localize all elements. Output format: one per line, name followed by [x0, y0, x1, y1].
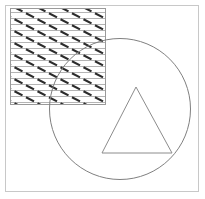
figure-svg-root: Geometric composition: hatched square ov… [0, 0, 205, 199]
geometric-figure-canvas: Geometric composition: hatched square ov… [0, 0, 205, 199]
hatched-square-fill-group [11, 9, 105, 104]
hatched-square-fill [11, 9, 105, 104]
